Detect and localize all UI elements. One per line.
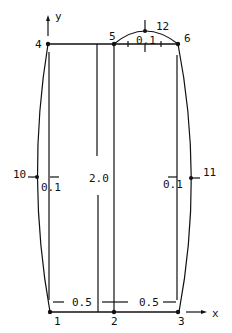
node-3 <box>176 310 180 314</box>
node-label-2: 2 <box>111 315 118 328</box>
node-4 <box>46 42 50 46</box>
right-bulge-dim: 0.1 <box>163 178 183 191</box>
node-label-6: 6 <box>184 32 191 45</box>
bottom-left-dim: 0.5 <box>72 296 92 309</box>
node-label-10: 10 <box>13 168 26 181</box>
y-axis-label: y <box>55 10 62 23</box>
node-6 <box>176 42 180 46</box>
node-label-11: 11 <box>203 166 216 179</box>
element-diagram: y x 4 5 6 12 1 2 3 10 11 0.1 2.0 0.1 0.1… <box>0 0 232 333</box>
node-label-1: 1 <box>54 315 61 328</box>
left-curved-edge <box>37 44 50 312</box>
node-label-3: 3 <box>178 315 185 328</box>
left-bulge-dim: 0.1 <box>41 181 61 194</box>
node-label-5: 5 <box>109 30 116 43</box>
node-10 <box>35 175 39 179</box>
node-1 <box>48 310 52 314</box>
y-arrow-icon <box>46 15 50 21</box>
x-arrow-icon <box>201 310 207 314</box>
bottom-right-dim: 0.5 <box>139 296 159 309</box>
node-11 <box>189 176 193 180</box>
top-bulge-dim: 0.1 <box>136 34 156 47</box>
node-12 <box>143 29 147 33</box>
node-label-4: 4 <box>35 38 42 51</box>
node-2 <box>112 310 116 314</box>
x-axis-label: x <box>212 307 219 320</box>
node-label-12: 12 <box>156 20 169 33</box>
height-dim: 2.0 <box>89 172 109 185</box>
